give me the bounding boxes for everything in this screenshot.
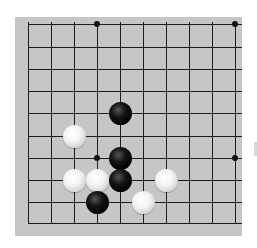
grid-line-horizontal [28,113,242,114]
grid-line-horizontal [28,91,242,92]
star-point [94,155,100,161]
grid-line-vertical [166,22,167,224]
black-stone [86,191,109,214]
grid-line-vertical [235,22,236,224]
grid-line-horizontal [28,180,242,181]
grid-line-horizontal [28,223,242,224]
white-stone [86,169,109,192]
white-stone [63,125,86,148]
black-stone [109,102,132,125]
white-stone [155,169,178,192]
white-stone [132,191,155,214]
go-board[interactable] [15,17,242,236]
grid-line-horizontal [28,158,242,159]
grid-line-vertical [51,22,52,224]
grid-line-vertical [74,22,75,224]
grid-line-horizontal [28,136,242,137]
black-stone [109,169,132,192]
star-point [232,21,238,27]
grid-line-vertical [189,22,190,224]
black-stone [109,147,132,170]
grid-line-horizontal [28,47,242,48]
star-point [94,21,100,27]
white-stone [63,169,86,192]
grid-line-vertical [212,22,213,224]
grid-line-vertical [28,22,29,224]
grid-line-horizontal [28,69,242,70]
edge-mark [254,142,257,156]
star-point [232,155,238,161]
grid-line-horizontal [28,24,242,25]
